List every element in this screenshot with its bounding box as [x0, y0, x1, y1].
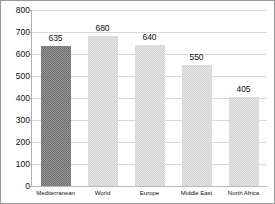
- bar: [41, 46, 71, 186]
- bar-series: 635680640550405: [32, 10, 267, 186]
- bar: [182, 65, 212, 186]
- bar-chart-figure: 8007006005004003002001000 63568064055040…: [0, 0, 275, 204]
- y-axis-tick-label: 600: [1, 50, 30, 58]
- x-axis-category-label: Mediterranean: [32, 189, 79, 197]
- bar-group: 640: [135, 10, 165, 186]
- y-axis-tick-label: 300: [1, 116, 30, 124]
- bar-group: 405: [229, 10, 259, 186]
- y-axis-tick-label: 700: [1, 28, 30, 36]
- bar: [229, 97, 259, 186]
- gridline: [32, 186, 267, 187]
- x-axis-category-label: Middle East: [173, 189, 220, 197]
- x-axis-category-label: World: [79, 189, 126, 197]
- bar-value-label: 635: [48, 34, 62, 43]
- y-axis-tick-label: 200: [1, 138, 30, 146]
- plot-area: 635680640550405: [32, 10, 267, 186]
- y-axis-tick-label: 0: [1, 182, 30, 190]
- y-axis-tick-label: 800: [1, 6, 30, 14]
- x-axis-category-label: North Africa: [220, 189, 267, 197]
- bar: [88, 36, 118, 186]
- bar: [135, 45, 165, 186]
- bar-group: 635: [41, 10, 71, 186]
- bar-value-label: 680: [95, 24, 109, 33]
- bar-value-label: 640: [142, 33, 156, 42]
- y-axis-tick-label: 100: [1, 160, 30, 168]
- bar-value-label: 550: [189, 53, 203, 62]
- bar-group: 680: [88, 10, 118, 186]
- bar-group: 550: [182, 10, 212, 186]
- y-axis-tick-label: 400: [1, 94, 30, 102]
- y-axis-tick-label: 500: [1, 72, 30, 80]
- bar-value-label: 405: [236, 85, 250, 94]
- x-axis-category-labels: MediterraneanWorldEuropeMiddle EastNorth…: [32, 189, 267, 203]
- x-axis-category-label: Europe: [126, 189, 173, 197]
